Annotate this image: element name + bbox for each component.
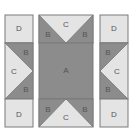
label-left-bottom-d: D <box>16 111 22 119</box>
label-right-top-d: D <box>111 25 117 33</box>
label-right-b-bottom: B <box>105 86 110 94</box>
label-center-a: A <box>63 67 68 75</box>
label-right-b-top: B <box>105 49 110 57</box>
label-center-bottom-b-left: B <box>45 106 50 114</box>
label-center-top-b-right: B <box>82 31 87 39</box>
label-left-b-top: B <box>23 49 28 57</box>
label-left-c: C <box>11 68 17 76</box>
label-right-c: C <box>114 68 120 76</box>
label-center-top-b-left: B <box>45 31 50 39</box>
label-center-bottom-b-right: B <box>82 106 87 114</box>
label-center-top-c: C <box>63 21 69 29</box>
label-left-b-bottom: B <box>23 86 28 94</box>
label-right-bottom-d: D <box>111 111 117 119</box>
label-left-top-d: D <box>16 25 22 33</box>
label-center-bottom-c: C <box>63 114 69 122</box>
